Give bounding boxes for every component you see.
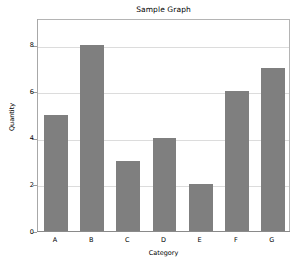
- x-tick-label-a: A: [45, 236, 65, 244]
- y-tick-label: 0: [14, 229, 34, 236]
- y-tick-label: 6: [14, 89, 34, 96]
- x-tick-label-e: E: [190, 236, 210, 244]
- gridline: [38, 93, 289, 94]
- y-axis-spine: [37, 19, 38, 232]
- bar-c[interactable]: [116, 161, 140, 231]
- x-tick-label-g: G: [262, 236, 282, 244]
- x-tick-label-c: C: [117, 236, 137, 244]
- x-tick-label-b: B: [81, 236, 101, 244]
- x-tick-label-d: D: [154, 236, 174, 244]
- gridline: [38, 47, 289, 48]
- y-tick-label: 8: [14, 42, 34, 49]
- bar-g[interactable]: [261, 68, 285, 231]
- bar-e[interactable]: [189, 184, 213, 231]
- bar-a[interactable]: [44, 115, 68, 231]
- chart-title: Sample Graph: [37, 5, 290, 15]
- x-axis-baseline: [37, 231, 290, 232]
- x-tick-label-f: F: [226, 236, 246, 244]
- bar-d[interactable]: [153, 138, 177, 231]
- y-tick-label: 2: [14, 182, 34, 189]
- plot-area: [37, 19, 290, 232]
- y-tick-label: 4: [14, 135, 34, 142]
- bar-b[interactable]: [80, 45, 104, 231]
- y-axis-label: Quantity: [8, 87, 16, 147]
- bar-f[interactable]: [225, 91, 249, 231]
- x-axis-label: Category: [37, 249, 290, 257]
- chart-figure: Sample Graph 02468 ABCDEFG Quantity Cate…: [0, 0, 306, 270]
